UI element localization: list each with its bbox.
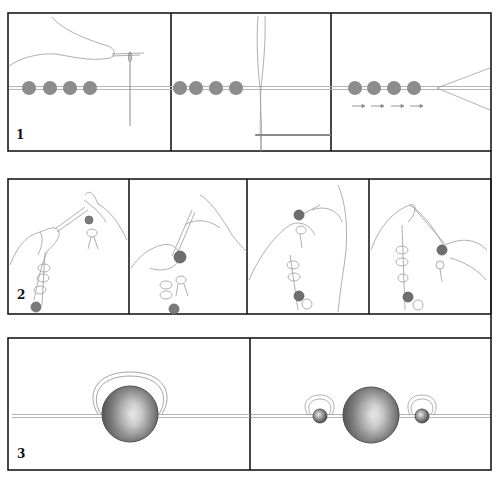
bead <box>387 81 401 95</box>
bead <box>22 81 36 95</box>
bead <box>43 81 57 95</box>
panel-1a <box>9 17 171 126</box>
finger-sketch <box>9 17 114 66</box>
panel-2d <box>371 205 487 310</box>
bead <box>209 81 223 95</box>
step-3-row <box>8 338 491 470</box>
bead <box>229 81 243 95</box>
panel-2a <box>10 192 127 312</box>
cord-end <box>437 88 490 110</box>
small-bead <box>415 409 429 423</box>
step-2-number: 2 <box>17 289 25 301</box>
step-1-frame <box>8 13 491 151</box>
bead <box>63 81 77 95</box>
bead <box>348 81 362 95</box>
bead <box>367 81 381 95</box>
panel-2c <box>249 185 347 312</box>
panel-2b <box>131 195 247 314</box>
step-1-number: 1 <box>16 129 24 141</box>
small-bead <box>313 409 327 423</box>
step-3-number: 3 <box>17 448 25 460</box>
bead <box>189 81 203 95</box>
bead <box>173 81 187 95</box>
figure-canvas <box>0 0 504 494</box>
direction-arrows <box>352 105 423 108</box>
panel-1b <box>171 16 331 151</box>
cord-end <box>437 68 490 88</box>
step-1-row <box>8 13 491 151</box>
bead <box>83 81 97 95</box>
panel-3b <box>251 387 490 443</box>
instruction-figure: 1 2 3 <box>0 0 504 494</box>
panel-1c <box>331 68 490 110</box>
panel-3a <box>12 372 250 442</box>
step-2-row <box>8 179 491 314</box>
step-2-frame <box>8 179 491 314</box>
bead <box>407 81 421 95</box>
